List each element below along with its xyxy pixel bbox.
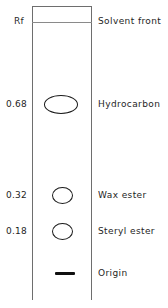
tlc-figure: Rf Solvent front 0.68 Hydrocarbon 0.32 W… <box>0 0 168 308</box>
rf-value-hydrocarbon: 0.68 <box>6 99 32 109</box>
band-label-steryl-ester: Steryl ester <box>98 226 155 236</box>
rf-value-steryl-ester: 0.18 <box>6 226 32 236</box>
spot-wax-ester <box>52 187 73 204</box>
solvent-front-label: Solvent front <box>98 16 161 26</box>
tlc-plate-outline <box>32 6 92 300</box>
solvent-front-line <box>32 22 92 23</box>
band-label-hydrocarbon: Hydrocarbon <box>98 99 160 109</box>
origin-band <box>55 272 75 275</box>
rf-axis-header: Rf <box>14 16 24 26</box>
band-label-wax-ester: Wax ester <box>98 190 147 200</box>
spot-steryl-ester <box>52 223 73 240</box>
rf-value-wax-ester: 0.32 <box>6 190 32 200</box>
origin-label: Origin <box>98 268 128 278</box>
spot-hydrocarbon <box>44 95 78 114</box>
